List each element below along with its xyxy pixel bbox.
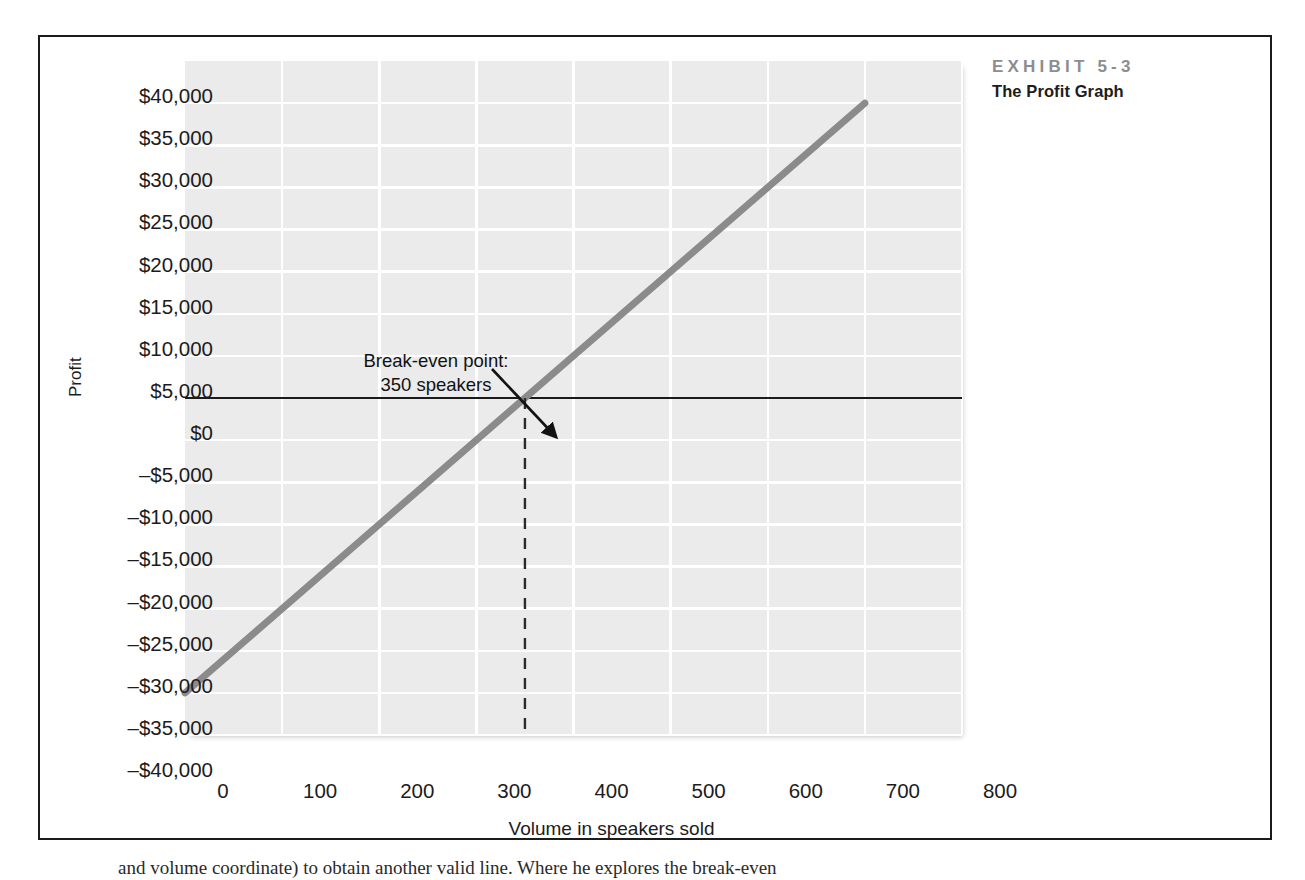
- annotation-arrow-icon: [490, 367, 580, 452]
- y-axis-tick-label: $35,000: [93, 126, 213, 150]
- y-axis-tick-label: $10,000: [93, 337, 213, 361]
- exhibit-title: The Profit Graph: [992, 82, 1252, 101]
- y-axis-title: Profit: [66, 357, 86, 397]
- exhibit-page: EXHIBIT 5-3 The Profit Graph $40,000$35,…: [0, 0, 1305, 880]
- y-axis-tick-label: –$30,000: [93, 674, 213, 698]
- exhibit-caption: EXHIBIT 5-3 The Profit Graph: [992, 57, 1252, 101]
- y-axis-tick-label: –$10,000: [93, 505, 213, 529]
- y-axis-tick-label: $30,000: [93, 168, 213, 192]
- y-axis-tick-label: $40,000: [93, 84, 213, 108]
- page-body-text: and volume coordinate) to obtain another…: [118, 857, 1118, 879]
- y-axis-tick-label: $5,000: [93, 379, 213, 403]
- y-axis-tick-label: –$35,000: [93, 716, 213, 740]
- x-axis-tick-label: 300: [464, 779, 564, 803]
- x-axis-tick-labels: 0100200300400500600700800: [223, 779, 1000, 809]
- y-axis-tick-label: $25,000: [93, 210, 213, 234]
- y-axis-tick-label: $15,000: [93, 295, 213, 319]
- y-axis-tick-label: $0: [93, 421, 213, 445]
- exhibit-frame: EXHIBIT 5-3 The Profit Graph $40,000$35,…: [38, 35, 1272, 840]
- x-axis-tick-label: 600: [756, 779, 856, 803]
- x-axis-tick-label: 800: [950, 779, 1050, 803]
- y-axis-tick-label: –$5,000: [93, 463, 213, 487]
- x-axis-tick-label: 400: [562, 779, 662, 803]
- y-axis-tick-labels: $40,000$35,000$30,000$25,000$20,000$15,0…: [50, 96, 213, 770]
- x-axis-title: Volume in speakers sold: [223, 818, 1000, 840]
- x-axis-tick-label: 200: [367, 779, 467, 803]
- y-axis-tick-label: –$20,000: [93, 590, 213, 614]
- y-axis-tick-label: $20,000: [93, 253, 213, 277]
- y-axis-tick-label: –$15,000: [93, 547, 213, 571]
- x-axis-tick-label: 0: [173, 779, 273, 803]
- x-axis-tick-label: 700: [853, 779, 953, 803]
- y-axis-tick-label: –$25,000: [93, 632, 213, 656]
- x-axis-tick-label: 500: [659, 779, 759, 803]
- exhibit-number: EXHIBIT 5-3: [992, 57, 1252, 77]
- x-axis-tick-label: 100: [270, 779, 370, 803]
